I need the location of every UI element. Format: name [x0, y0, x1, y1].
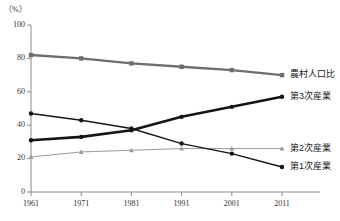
y-tick-label: 40: [17, 120, 25, 129]
x-tick-label: 1991: [174, 199, 190, 208]
data-point: [179, 141, 183, 145]
series-label-2: 第3次産業: [290, 90, 331, 101]
data-point: [29, 138, 33, 142]
data-point: [79, 56, 83, 60]
series-4: [29, 111, 284, 169]
x-tick-label: 2011: [274, 199, 290, 208]
series-line: [31, 149, 282, 157]
y-tick-label: 20: [17, 153, 25, 162]
series-label-3: 第2次産業: [290, 142, 331, 153]
data-point: [280, 73, 284, 77]
legend-group: 農村人口比第3次産業第2次産業第1次産業: [290, 68, 335, 171]
data-point: [179, 65, 183, 69]
data-point: [79, 118, 83, 122]
data-point: [230, 105, 234, 109]
data-point: [29, 111, 33, 115]
x-tick-label: 1961: [23, 199, 39, 208]
y-axis-group: 020406080100: [13, 20, 31, 196]
y-tick-label: 60: [17, 87, 25, 96]
series-1: [29, 53, 284, 77]
x-tick-group: 196119711981199120012011: [23, 192, 290, 208]
data-point: [280, 95, 284, 99]
x-axis-group: 196119711981199120012011: [23, 192, 320, 208]
data-point: [280, 165, 284, 169]
y-axis-unit-label: （%）: [4, 5, 27, 14]
data-point: [79, 135, 83, 139]
x-tick-label: 2001: [224, 199, 240, 208]
data-point: [230, 68, 234, 72]
y-tick-label: 80: [17, 53, 25, 62]
series-line: [31, 114, 282, 167]
data-point: [129, 126, 133, 130]
line-chart: 020406080100 196119711981199120012011 （%…: [0, 0, 340, 221]
y-tick-label: 100: [13, 20, 25, 29]
series-line: [31, 55, 282, 75]
data-point: [129, 61, 133, 65]
series-group: [29, 53, 285, 169]
series-label-1: 農村人口比: [290, 68, 335, 79]
data-point: [29, 53, 33, 57]
series-label-4: 第1次産業: [290, 160, 331, 171]
chart-canvas: 020406080100 196119711981199120012011 （%…: [0, 0, 340, 221]
x-tick-label: 1971: [73, 199, 89, 208]
y-tick-label: 0: [21, 187, 25, 196]
x-tick-label: 1981: [123, 199, 139, 208]
data-point: [179, 115, 183, 119]
y-tick-group: 020406080100: [13, 20, 31, 196]
data-point: [230, 151, 234, 155]
